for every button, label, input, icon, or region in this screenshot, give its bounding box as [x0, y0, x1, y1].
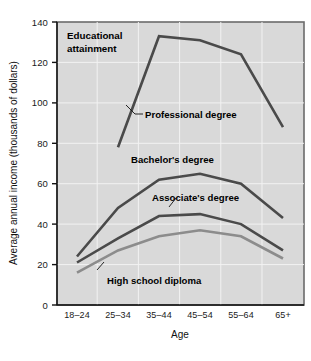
x-tick-label-65-plus: 65+ [275, 310, 291, 320]
y-tick-label-140: 140 [32, 17, 48, 28]
y-tick-label-0: 0 [43, 300, 48, 311]
income-by-education-line-chart: 140 120 100 80 60 40 20 0 18–24 25–34 35… [0, 0, 311, 361]
series-label-bachelors-degree: Bachelor's degree [131, 154, 214, 165]
y-tick-label-20: 20 [37, 259, 48, 270]
y-tick-label-60: 60 [37, 178, 48, 189]
x-tick-label-35-44: 35–44 [146, 310, 172, 320]
y-tick-label-120: 120 [32, 57, 48, 68]
x-tick-label-18-24: 18–24 [64, 310, 90, 320]
x-tick-label-25-34: 25–34 [105, 310, 131, 320]
x-tick-label-45-54: 45–54 [187, 310, 213, 320]
panel-title-line1: Educational [67, 30, 123, 41]
series-label-professional-degree: Professional degree [145, 109, 237, 120]
y-tick-label-40: 40 [37, 219, 48, 230]
series-label-associates-degree: Associate's degree [152, 192, 239, 203]
series-label-high-school-diploma: High school diploma [107, 275, 202, 286]
y-tick-label-80: 80 [37, 138, 48, 149]
y-axis-title: Average annual income (thousands of doll… [8, 61, 19, 265]
y-tick-label-100: 100 [32, 97, 48, 108]
x-tick-label-55-64: 55–64 [228, 310, 254, 320]
x-axis-title: Age [171, 329, 189, 340]
panel-title-line2: attainment [67, 43, 117, 54]
chart-container: 140 120 100 80 60 40 20 0 18–24 25–34 35… [0, 0, 311, 361]
